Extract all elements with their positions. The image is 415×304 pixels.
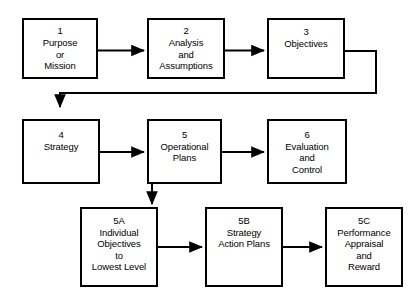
node-operational-plans[interactable]: 5 Operational Plans [147, 119, 222, 184]
node-label: Analysis and Assumptions [159, 37, 212, 72]
node-label: Operational Plans [160, 141, 208, 164]
node-label: Strategy Action Plans [218, 227, 270, 250]
node-label: Strategy [44, 141, 79, 153]
node-label: Evaluation and Control [285, 141, 328, 176]
node-number: 5 [182, 129, 187, 141]
node-number: 2 [183, 25, 188, 37]
node-objectives[interactable]: 3 Objectives [267, 18, 345, 79]
node-number: 6 [304, 129, 309, 141]
flowchart-canvas: 1 Purpose or Mission 2 Analysis and Assu… [0, 0, 415, 304]
node-number: 5B [238, 215, 249, 227]
node-analysis-and-assumptions[interactable]: 2 Analysis and Assumptions [147, 18, 225, 79]
node-strategy-action-plans[interactable]: 5B Strategy Action Plans [205, 207, 283, 287]
node-label: Objectives [284, 38, 327, 50]
node-label: Individual Objectives to Lowest Level [92, 227, 146, 273]
node-performance-appraisal[interactable]: 5C Performance Appraisal and Reward [325, 207, 403, 287]
node-strategy[interactable]: 4 Strategy [22, 119, 100, 184]
node-number: 5A [113, 215, 124, 227]
node-label: Purpose or Mission [43, 37, 78, 72]
node-number: 4 [58, 129, 63, 141]
node-number: 3 [303, 26, 308, 38]
node-number: 1 [57, 25, 62, 37]
node-purpose-or-mission[interactable]: 1 Purpose or Mission [22, 18, 98, 79]
node-individual-objectives[interactable]: 5A Individual Objectives to Lowest Level [80, 207, 158, 287]
node-evaluation-and-control[interactable]: 6 Evaluation and Control [267, 119, 347, 184]
node-label: Performance Appraisal and Reward [337, 227, 390, 273]
node-number: 5C [358, 215, 370, 227]
